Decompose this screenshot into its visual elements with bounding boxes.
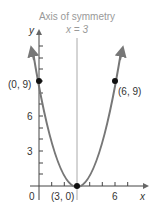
x-tick-label-0: 0 [29, 191, 35, 202]
point-0-9 [36, 78, 42, 84]
y-ticks [39, 46, 43, 174]
x-ticks [52, 182, 128, 186]
chart-title: Axis of symmetry [39, 11, 115, 22]
x-tick-label-6: 6 [112, 191, 118, 202]
chart-subtitle: x = 3 [65, 24, 88, 35]
y-tick-label-3: 3 [27, 146, 33, 157]
y-tick-label-6: 6 [27, 111, 33, 122]
y-axis-label: y [28, 25, 35, 36]
point-3-0 [74, 183, 80, 189]
x-axis-label: x [139, 191, 146, 202]
point-label-0-9: (0, 9) [8, 79, 31, 90]
point-label-6-9: (6, 9) [118, 86, 141, 97]
point-6-9 [112, 78, 118, 84]
point-label-3-0: (3, 0) [51, 191, 74, 202]
parabola-chart: Axis of symmetry x = 3 y x (0, 9) (6, 9)… [0, 0, 153, 215]
